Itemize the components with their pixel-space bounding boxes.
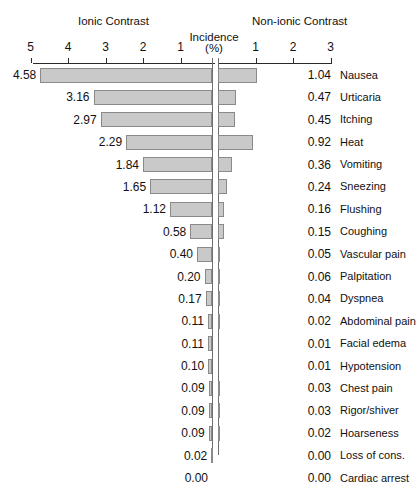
bar-nonionic-vomiting xyxy=(218,157,232,172)
value-ionic: 2.29 xyxy=(82,135,122,149)
category-label: Hypotension xyxy=(340,360,401,372)
category-label: Heat xyxy=(340,136,363,148)
value-ionic: 0.40 xyxy=(153,247,193,261)
tick-mark-right-2 xyxy=(293,58,294,63)
category-label: Urticaria xyxy=(340,91,381,103)
category-label: Loss of cons. xyxy=(340,449,405,461)
value-ionic: 0.11 xyxy=(164,314,204,328)
tick-label-left-1: 1 xyxy=(172,40,190,54)
value-ionic: 0.09 xyxy=(165,426,205,440)
bar-ionic-loss-of-cons- xyxy=(211,448,213,463)
chart-row: 4.581.04Nausea xyxy=(0,66,393,88)
category-label: Abdominal pain xyxy=(340,315,416,327)
tick-mark-left-5 xyxy=(31,58,32,63)
tick-mark-right-3 xyxy=(331,58,332,63)
bar-nonionic-rigor-shiver xyxy=(218,403,220,418)
category-label: Facial edema xyxy=(340,337,406,349)
chart-row: 0.090.03Rigor/shiver xyxy=(0,402,393,424)
right-axis-rule xyxy=(218,63,332,64)
chart-row: 1.840.36Vomiting xyxy=(0,156,393,178)
bar-ionic-vascular-pain xyxy=(197,247,212,262)
chart-row: 0.200.06Palpitation xyxy=(0,268,393,290)
chart-row: 0.170.04Dyspnea xyxy=(0,290,393,312)
value-ionic: 2.97 xyxy=(57,113,97,127)
tick-mark-left-4 xyxy=(68,58,69,63)
tick-label-left-4: 4 xyxy=(59,40,77,54)
value-nonionic: 0.45 xyxy=(291,113,331,127)
value-nonionic: 0.16 xyxy=(291,202,331,216)
bar-ionic-facial-edema xyxy=(208,336,212,351)
bar-ionic-itching xyxy=(101,112,212,127)
value-ionic: 0.20 xyxy=(161,270,201,284)
value-ionic: 3.16 xyxy=(50,90,90,104)
chart-row: 1.120.16Flushing xyxy=(0,200,393,222)
tick-label-right-2: 2 xyxy=(284,40,302,54)
bar-ionic-urticaria xyxy=(94,90,213,105)
value-nonionic: 0.47 xyxy=(291,90,331,104)
bar-nonionic-vascular-pain xyxy=(218,247,220,262)
chart-row: 0.000.00Cardiac arrest xyxy=(0,469,393,486)
value-nonionic: 0.02 xyxy=(291,426,331,440)
bar-nonionic-chest-pain xyxy=(218,381,220,396)
value-nonionic: 0.15 xyxy=(291,225,331,239)
value-nonionic: 0.01 xyxy=(291,337,331,351)
tick-label-left-5: 5 xyxy=(22,40,40,54)
value-ionic: 0.10 xyxy=(164,359,204,373)
chart-row: 3.160.47Urticaria xyxy=(0,88,393,110)
bar-ionic-heat xyxy=(126,135,212,150)
bar-nonionic-coughing xyxy=(218,224,224,239)
value-nonionic: 0.03 xyxy=(291,404,331,418)
bar-nonionic-nausea xyxy=(218,68,257,83)
category-label: Vascular pain xyxy=(340,248,406,260)
chart-header-center-line2: (%) xyxy=(181,43,247,54)
value-ionic: 0.02 xyxy=(167,449,207,463)
value-ionic: 0.00 xyxy=(168,471,208,485)
tick-mark-left-1 xyxy=(181,58,182,63)
chart-row: 1.650.24Sneezing xyxy=(0,178,393,200)
value-nonionic: 0.05 xyxy=(291,247,331,261)
value-ionic: 0.17 xyxy=(162,292,202,306)
category-label: Chest pain xyxy=(340,382,393,394)
chart-row: 2.290.92Heat xyxy=(0,133,393,155)
bar-ionic-flushing xyxy=(170,202,212,217)
chart-rows: 4.581.04Nausea3.160.47Urticaria2.970.45I… xyxy=(0,66,393,486)
category-label: Palpitation xyxy=(340,270,391,282)
bar-nonionic-flushing xyxy=(218,202,224,217)
value-nonionic: 0.02 xyxy=(291,314,331,328)
category-label: Sneezing xyxy=(340,180,386,192)
chart-row: 0.090.03Chest pain xyxy=(0,379,393,401)
value-ionic: 1.12 xyxy=(126,202,166,216)
bar-nonionic-itching xyxy=(218,112,235,127)
chart-row: 0.110.01Facial edema xyxy=(0,335,393,357)
tick-mark-left-2 xyxy=(143,58,144,63)
tick-label-right-3: 3 xyxy=(322,40,340,54)
bar-nonionic-palpitation xyxy=(218,269,220,284)
value-nonionic: 0.00 xyxy=(291,449,331,463)
value-ionic: 0.58 xyxy=(146,225,186,239)
bar-ionic-hypotension xyxy=(208,359,212,374)
value-nonionic: 0.36 xyxy=(291,158,331,172)
category-label: Hoarseness xyxy=(340,427,399,439)
chart-header-right: Non-ionic Contrast xyxy=(252,15,347,27)
chart-row: 0.580.15Coughing xyxy=(0,223,393,245)
value-ionic: 0.09 xyxy=(165,404,205,418)
chart-row: 2.970.45Itching xyxy=(0,111,393,133)
chart-row: 0.400.05Vascular pain xyxy=(0,245,393,267)
chart-row: 0.020.00Loss of cons. xyxy=(0,447,393,469)
bar-ionic-hoarseness xyxy=(209,426,212,441)
value-nonionic: 0.03 xyxy=(291,381,331,395)
chart-row: 0.110.02Abdominal pain xyxy=(0,312,393,334)
tick-label-left-3: 3 xyxy=(97,40,115,54)
category-label: Rigor/shiver xyxy=(340,404,399,416)
category-label: Vomiting xyxy=(340,158,382,170)
bar-ionic-rigor-shiver xyxy=(209,403,212,418)
value-nonionic: 1.04 xyxy=(291,68,331,82)
bar-ionic-abdominal-pain xyxy=(208,314,212,329)
bar-nonionic-dyspnea xyxy=(218,291,220,306)
category-label: Cardiac arrest xyxy=(340,472,409,484)
value-ionic: 1.65 xyxy=(106,180,146,194)
chart-header-left: Ionic Contrast xyxy=(78,15,149,27)
bar-ionic-sneezing xyxy=(150,179,212,194)
value-nonionic: 0.01 xyxy=(291,359,331,373)
